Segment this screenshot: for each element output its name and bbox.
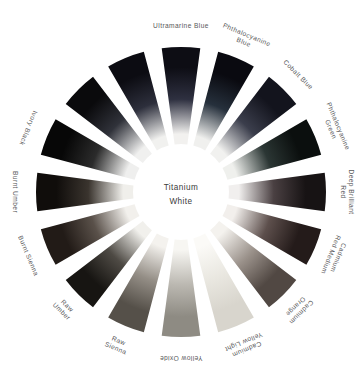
color-wedge[interactable] [162, 47, 201, 144]
hub-label-line1: Titanium [164, 183, 199, 192]
color-wheel-svg: Titanium White [0, 0, 362, 388]
color-wedge[interactable] [229, 173, 326, 212]
wedge-label: Ultramarine Blue [153, 22, 209, 30]
wedge-label: Yellow Oxide [160, 354, 203, 362]
color-wedge[interactable] [162, 240, 201, 337]
color-wedge[interactable] [36, 173, 133, 212]
wedge-label: Burnt Umber [11, 171, 19, 213]
wedge-label: Deep Brilliant Red [339, 169, 356, 214]
hub-label-line2: White [169, 197, 192, 206]
hub-circle [135, 146, 227, 238]
color-wheel-figure: Titanium White Ultramarine BluePhthalocy… [0, 0, 362, 388]
